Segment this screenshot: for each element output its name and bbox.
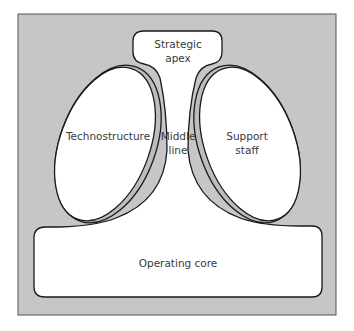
- strategic-apex-label-line2: apex: [165, 52, 191, 64]
- middle-line-label-line1: Middle: [161, 130, 196, 142]
- organization-structure-diagram: Strategic apex Technostructure Middle li…: [0, 0, 354, 331]
- middle-line-label-line2: line: [169, 144, 188, 156]
- operating-core-label: Operating core: [139, 257, 218, 269]
- technostructure-label: Technostructure: [65, 130, 150, 142]
- support-staff-label-line2: staff: [235, 144, 259, 156]
- support-staff-label-line1: Support: [226, 130, 268, 142]
- strategic-apex-label-line1: Strategic: [154, 38, 202, 50]
